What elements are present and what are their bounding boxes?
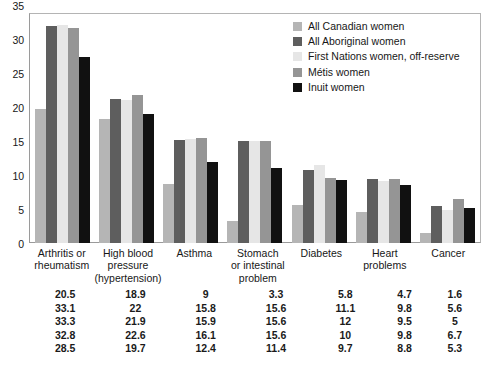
- y-axis-tick-15: 15: [13, 137, 24, 148]
- table-cell: 5: [430, 315, 480, 329]
- bar: [431, 206, 442, 243]
- legend-label: All Aboriginal women: [308, 36, 405, 47]
- bar: [464, 208, 475, 243]
- table-row: 33.321.915.915.6129.55: [30, 315, 480, 329]
- table-cell: 5.3: [430, 342, 480, 356]
- legend-label: Métis women: [308, 67, 370, 78]
- table-cell: 9: [171, 288, 241, 302]
- bar: [57, 25, 68, 243]
- bar-group: [223, 14, 287, 243]
- bar: [99, 119, 110, 243]
- table-cell: 20.5: [30, 288, 100, 302]
- legend-item[interactable]: All Canadian women: [293, 21, 460, 32]
- bar: [35, 109, 46, 243]
- table-cell: 18.9: [100, 288, 170, 302]
- bar-group: [94, 14, 158, 243]
- bar: [356, 212, 367, 243]
- bar: [143, 114, 154, 243]
- y-axis-tick-20: 20: [13, 103, 24, 114]
- bar-group: [30, 14, 94, 243]
- table-cell: 12: [311, 315, 379, 329]
- legend-item[interactable]: Métis women: [293, 67, 460, 78]
- bar: [420, 233, 431, 243]
- table-cell: 33.3: [30, 315, 100, 329]
- x-axis-category-label: Asthma: [163, 247, 226, 284]
- table-cell: 10: [311, 329, 379, 343]
- table-cell: 9.7: [311, 342, 379, 356]
- bar: [303, 170, 314, 243]
- bar: [260, 141, 271, 243]
- table-cell: 5.6: [430, 302, 480, 316]
- table-cell: 15.6: [241, 302, 311, 316]
- legend-swatch-icon: [293, 52, 302, 61]
- x-axis-category-label: Arthritis orrheumatism: [30, 247, 93, 284]
- y-axis-tick-30: 30: [13, 35, 24, 46]
- bar: [314, 165, 325, 244]
- y-axis-tick-35: 35: [13, 1, 24, 12]
- bar: [196, 138, 207, 243]
- legend-label: First Nations women, off-reserve: [308, 51, 460, 62]
- table-cell: 22.6: [100, 329, 170, 343]
- bar: [249, 141, 260, 243]
- bar: [336, 180, 347, 243]
- legend-item[interactable]: First Nations women, off-reserve: [293, 51, 460, 62]
- bar: [174, 140, 185, 243]
- table-cell: 15.8: [171, 302, 241, 316]
- bar: [325, 178, 336, 243]
- table-cell: 4.7: [379, 288, 429, 302]
- table-cell: 21.9: [100, 315, 170, 329]
- table-cell: 11.4: [241, 342, 311, 356]
- table-row: 32.822.616.115.6109.86.7: [30, 329, 480, 343]
- table-cell: 6.7: [430, 329, 480, 343]
- bar: [227, 221, 238, 243]
- table-cell: 9.5: [379, 315, 429, 329]
- x-axis-category-label: High bloodpressure(hypertension): [93, 247, 162, 284]
- bar: [207, 162, 218, 243]
- y-axis-tick-10: 10: [13, 171, 24, 182]
- legend-item[interactable]: All Aboriginal women: [293, 36, 460, 47]
- legend-label: Inuit women: [308, 82, 365, 93]
- bar: [271, 168, 282, 243]
- table-cell: 28.5: [30, 342, 100, 356]
- chart-legend: All Canadian womenAll Aboriginal womenFi…: [293, 21, 460, 93]
- table-cell: 22: [100, 302, 170, 316]
- x-axis-category-label: Heartproblems: [353, 247, 416, 284]
- table-row: 28.519.712.411.49.78.85.3: [30, 342, 480, 356]
- table-cell: 1.6: [430, 288, 480, 302]
- x-axis-category-label: Cancer: [417, 247, 480, 284]
- table-cell: 5.8: [311, 288, 379, 302]
- bar: [68, 28, 79, 243]
- y-axis: 05101520253035: [0, 6, 28, 244]
- table-cell: 11.1: [311, 302, 379, 316]
- bar-group: [159, 14, 223, 243]
- bar-chart-figure: 05101520253035 Arthritis orrheumatismHig…: [0, 0, 486, 370]
- table-cell: 16.1: [171, 329, 241, 343]
- bar: [389, 179, 400, 243]
- legend-item[interactable]: Inuit women: [293, 82, 460, 93]
- table-cell: 15.6: [241, 315, 311, 329]
- table-cell: 12.4: [171, 342, 241, 356]
- bar: [453, 199, 464, 243]
- table-cell: 9.8: [379, 302, 429, 316]
- data-table-body: 20.518.993.35.84.71.633.12215.815.611.19…: [30, 288, 480, 356]
- bar: [79, 57, 90, 243]
- table-row: 20.518.993.35.84.71.6: [30, 288, 480, 302]
- bar: [163, 184, 174, 243]
- bar: [367, 179, 378, 243]
- legend-swatch-icon: [293, 68, 302, 77]
- table-cell: 3.3: [241, 288, 311, 302]
- bar: [292, 205, 303, 243]
- bar: [132, 95, 143, 243]
- table-cell: 33.1: [30, 302, 100, 316]
- y-axis-tick-25: 25: [13, 69, 24, 80]
- bar: [110, 99, 121, 243]
- legend-swatch-icon: [293, 83, 302, 92]
- bar: [400, 185, 411, 243]
- x-axis-category-label: Diabetes: [290, 247, 353, 284]
- legend-swatch-icon: [293, 37, 302, 46]
- table-cell: 15.6: [241, 329, 311, 343]
- bar: [46, 26, 57, 243]
- bar: [378, 181, 389, 243]
- x-axis-category-labels: Arthritis orrheumatismHigh bloodpressure…: [30, 247, 480, 284]
- bar: [442, 210, 453, 243]
